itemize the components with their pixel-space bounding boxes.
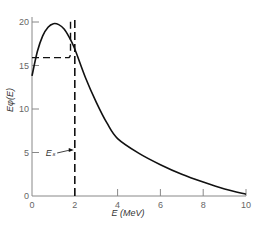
chart: 024681005101520 Eₛ E (MeV) Eφ(E)	[0, 0, 258, 225]
axes	[32, 17, 246, 196]
x-tick-label: 10	[241, 200, 251, 210]
y-tick-label: 10	[19, 104, 29, 114]
x-tick-label: 2	[72, 200, 77, 210]
annotation-es: Eₛ	[46, 148, 56, 158]
annotation-arrow	[57, 150, 71, 153]
y-tick-label: 15	[19, 61, 29, 71]
y-tick-label: 20	[19, 17, 29, 27]
spectrum-curve	[32, 24, 246, 195]
x-tick-label: 0	[29, 200, 34, 210]
ticks	[32, 22, 246, 196]
y-tick-label: 5	[24, 148, 29, 158]
y-tick-label: 0	[24, 191, 29, 201]
x-axis-title: E (MeV)	[111, 208, 144, 218]
x-tick-label: 6	[158, 200, 163, 210]
arrow-head-icon	[69, 148, 74, 152]
y-axis-title: Eφ(E)	[5, 88, 15, 112]
x-tick-label: 8	[201, 200, 206, 210]
series	[32, 18, 246, 195]
tick-labels: 024681005101520	[19, 17, 251, 210]
